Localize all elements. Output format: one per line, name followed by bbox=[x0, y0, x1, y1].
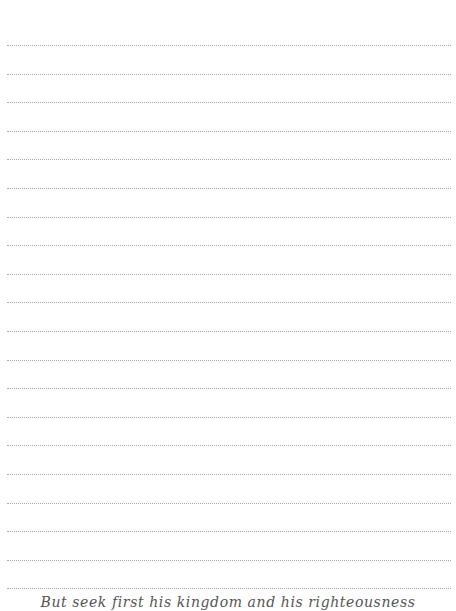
ruled-line bbox=[7, 159, 451, 160]
ruled-line bbox=[7, 302, 451, 303]
ruled-line bbox=[7, 217, 451, 218]
ruled-line bbox=[7, 331, 451, 332]
ruled-line bbox=[7, 360, 451, 361]
ruled-line bbox=[7, 74, 451, 75]
ruled-line bbox=[7, 131, 451, 132]
ruled-line bbox=[7, 102, 451, 103]
ruled-line bbox=[7, 245, 451, 246]
ruled-line bbox=[7, 531, 451, 532]
ruled-line bbox=[7, 560, 451, 561]
scripture-caption: But seek first his kingdom and his right… bbox=[0, 593, 456, 611]
ruled-line bbox=[7, 588, 451, 589]
ruled-line bbox=[7, 445, 451, 446]
ruled-line bbox=[7, 188, 451, 189]
ruled-line bbox=[7, 274, 451, 275]
ruled-line bbox=[7, 388, 451, 389]
ruled-line bbox=[7, 474, 451, 475]
ruled-line bbox=[7, 417, 451, 418]
ruled-line bbox=[7, 503, 451, 504]
ruled-line bbox=[7, 45, 451, 46]
